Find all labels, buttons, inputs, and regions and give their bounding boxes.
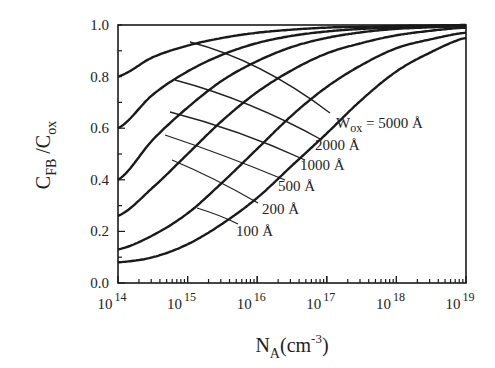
leader-line <box>190 42 330 113</box>
x-tick-label: 1016 <box>237 290 266 312</box>
x-tick-labels: 101410151016101710181019 <box>98 290 475 312</box>
series-curves <box>118 25 466 262</box>
curve-label-1000: 1000 Å <box>300 157 345 173</box>
x-tick-label: 1018 <box>376 290 405 312</box>
curve-2000 <box>118 26 466 129</box>
y-tick-labels: 0.00.20.40.60.81.0 <box>90 17 109 291</box>
y-tick-label: 0.6 <box>90 120 109 136</box>
curve-labels: Wox = 5000 Å 2000 Å 1000 Å 500 Å 200 Å 1… <box>236 115 423 239</box>
curve-label-200: 200 Å <box>262 201 299 217</box>
x-tick-label: 1019 <box>446 290 475 312</box>
y-axis-title: CFB /Cox <box>32 121 59 189</box>
curve-label-2000: 2000 Å <box>315 137 360 153</box>
curve-label-500: 500 Å <box>278 178 315 194</box>
x-axis-title: NA(cm-3) <box>255 331 328 361</box>
x-tick-label: 1014 <box>98 290 127 312</box>
leader-line <box>175 80 322 140</box>
leader-line <box>172 160 258 203</box>
curve-100 <box>118 38 466 263</box>
y-tick-label: 0.4 <box>90 172 109 188</box>
y-tick-label: 1.0 <box>90 17 109 33</box>
chart: 0.00.20.40.60.81.0 101410151016101710181… <box>0 0 495 368</box>
curve-label-100: 100 Å <box>236 223 273 239</box>
y-tick-label: 0.8 <box>90 69 109 85</box>
y-tick-label: 0.2 <box>90 223 109 239</box>
curve-1000 <box>118 26 466 180</box>
x-tick-label: 1017 <box>306 290 335 312</box>
curve-label-5000: Wox = 5000 Å <box>336 115 423 135</box>
y-tick-label: 0.0 <box>90 275 109 291</box>
x-tick-label: 1015 <box>167 290 196 312</box>
